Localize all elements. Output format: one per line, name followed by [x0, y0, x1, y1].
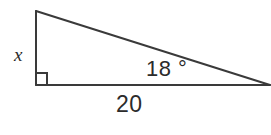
- adjacent-side-label: 20: [116, 93, 143, 116]
- opposite-side-label: x: [14, 45, 22, 64]
- angle-label: 18 °: [146, 58, 187, 80]
- triangle-figure: x 18 ° 20: [0, 0, 271, 135]
- right-angle-marker-icon: [36, 73, 47, 85]
